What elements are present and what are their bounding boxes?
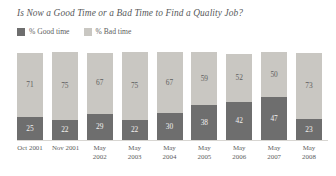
bar-value-label: 23	[305, 126, 312, 133]
bar-segment-good-time[interactable]: 42	[226, 102, 252, 140]
bar-segment-bad-time[interactable]: 50	[261, 52, 287, 98]
bar-segment-good-time[interactable]: 38	[191, 105, 217, 140]
bar-segment-good-time[interactable]: 25	[17, 117, 43, 140]
bar-column[interactable]: 7522	[52, 49, 78, 140]
axis-baseline	[17, 140, 328, 141]
bar-column[interactable]: 5242	[226, 49, 252, 140]
legend-item-good-time: % Good time	[17, 27, 70, 36]
bar-value-label: 59	[201, 75, 208, 82]
plot-area: 712575226729752267305938524250477323	[17, 49, 322, 140]
x-axis-tick-label: May2003	[122, 143, 148, 161]
x-axis-tick-label: Nov 2001	[52, 143, 78, 161]
bar-segment-bad-time[interactable]: 73	[296, 53, 322, 119]
x-axis-tick-label: May2007	[261, 143, 287, 161]
bar-column[interactable]: 6730	[157, 49, 183, 140]
bar-column[interactable]: 5047	[261, 49, 287, 140]
bar-value-label: 75	[61, 82, 68, 89]
x-axis-tick-labels: Oct 2001Nov 2001May2002May2003May2004May…	[17, 143, 322, 161]
bar-value-label: 42	[236, 117, 243, 124]
bar-column[interactable]: 7125	[17, 49, 43, 140]
legend-item-bad-time: % Bad time	[84, 27, 132, 36]
x-axis-tick-label: Oct 2001	[17, 143, 43, 161]
x-axis-tick-label: May2004	[157, 143, 183, 161]
square-swatch-icon	[84, 28, 92, 36]
bar-segment-bad-time[interactable]: 59	[191, 52, 217, 106]
bar-value-label: 22	[131, 126, 138, 133]
bar-value-label: 67	[96, 79, 103, 86]
bar-segment-good-time[interactable]: 22	[122, 120, 148, 140]
bar-segment-bad-time[interactable]: 52	[226, 54, 252, 101]
chart-title: Is Now a Good Time or a Bad Time to Find…	[17, 8, 243, 18]
bar-value-label: 25	[26, 125, 33, 132]
x-axis-tick-label: May2008	[296, 143, 322, 161]
bar-column[interactable]: 7522	[122, 49, 148, 140]
bar-value-label: 50	[270, 71, 277, 78]
bar-segment-good-time[interactable]: 22	[52, 120, 78, 140]
legend-item-label: % Bad time	[96, 27, 132, 36]
bar-segment-good-time[interactable]: 23	[296, 119, 322, 140]
bar-value-label: 67	[166, 79, 173, 86]
bar-column[interactable]: 7323	[296, 49, 322, 140]
bar-value-label: 47	[270, 115, 277, 122]
bar-value-label: 29	[96, 123, 103, 130]
chart-legend: % Good time % Bad time	[17, 27, 131, 36]
bar-segment-good-time[interactable]: 47	[261, 97, 287, 140]
bar-value-label: 30	[166, 123, 173, 130]
bar-column[interactable]: 5938	[191, 49, 217, 140]
bar-value-label: 52	[236, 74, 243, 81]
square-swatch-icon	[17, 28, 25, 36]
bar-segment-good-time[interactable]: 29	[87, 114, 113, 140]
bar-value-label: 71	[26, 81, 33, 88]
bar-segment-bad-time[interactable]: 71	[17, 53, 43, 118]
chart-container: Is Now a Good Time or a Bad Time to Find…	[0, 0, 336, 176]
bar-segment-bad-time[interactable]: 75	[52, 52, 78, 120]
bar-value-label: 38	[201, 119, 208, 126]
bar-value-label: 73	[305, 82, 312, 89]
bar-value-label: 22	[61, 126, 68, 133]
bar-column[interactable]: 6729	[87, 49, 113, 140]
x-axis-tick-label: May2002	[87, 143, 113, 161]
legend-item-label: % Good time	[29, 27, 70, 36]
bar-segment-bad-time[interactable]: 67	[157, 52, 183, 113]
bar-segment-bad-time[interactable]: 67	[87, 53, 113, 114]
bar-segment-bad-time[interactable]: 75	[122, 52, 148, 120]
bar-value-label: 75	[131, 82, 138, 89]
x-axis-tick-label: May2006	[226, 143, 252, 161]
x-axis-tick-label: May2005	[191, 143, 217, 161]
bar-segment-good-time[interactable]: 30	[157, 113, 183, 140]
